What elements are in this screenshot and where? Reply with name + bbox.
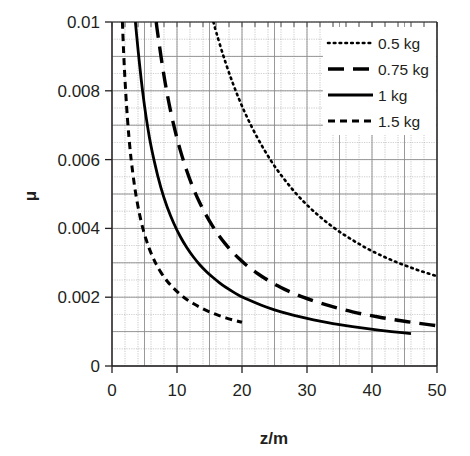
- chart-legend: 0.5 kg0.75 kg1 kg1.5 kg: [323, 27, 436, 135]
- y-axis-title: μ: [21, 191, 40, 201]
- x-tick-label: 10: [168, 381, 187, 400]
- chart-canvas: 01020304050 00.0020.0040.0060.0080.01 0.…: [0, 0, 470, 456]
- y-tick-label: 0.006: [57, 151, 100, 170]
- x-axis-title: z/m: [260, 429, 288, 448]
- y-tick-label: 0.008: [57, 82, 100, 101]
- y-tick-label: 0.01: [67, 13, 100, 32]
- y-tick-label: 0.002: [57, 288, 100, 307]
- x-tick-label: 50: [428, 381, 447, 400]
- x-tick-label: 0: [107, 381, 116, 400]
- legend-label: 0.5 kg: [378, 35, 420, 52]
- y-tick-label: 0.004: [57, 219, 100, 238]
- x-tick-label: 30: [298, 381, 317, 400]
- x-tick-label: 40: [363, 381, 382, 400]
- x-tick-label: 20: [233, 381, 252, 400]
- y-tick-label: 0: [91, 357, 100, 376]
- legend-label: 1.5 kg: [378, 113, 420, 130]
- legend-label: 1 kg: [378, 87, 407, 104]
- chart-figure: 01020304050 00.0020.0040.0060.0080.01 0.…: [0, 0, 470, 456]
- legend-label: 0.75 kg: [378, 61, 429, 78]
